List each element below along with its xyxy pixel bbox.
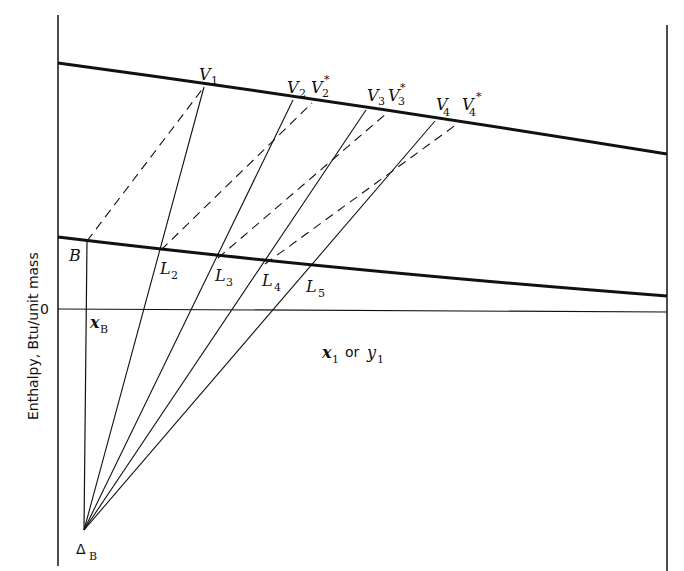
tie-line-l2-v2star — [161, 103, 312, 250]
svg-text:x: x — [89, 313, 100, 332]
zero-enthalpy-line — [58, 309, 667, 312]
label-b: B — [68, 246, 81, 265]
svg-text:2: 2 — [171, 269, 178, 282]
operating-line-v3 — [84, 110, 366, 530]
enthalpy-composition-diagram: Enthalpy, Btu/unit mass 0 x 1 or y 1 V 1… — [0, 0, 684, 571]
svg-text:x: x — [321, 343, 332, 362]
label-v4: V 4 — [436, 95, 450, 119]
saturated-vapor-curve — [58, 63, 667, 154]
label-l3: L 3 — [214, 266, 233, 289]
svg-text:Δ: Δ — [76, 541, 86, 557]
tie-line-b-v1 — [87, 87, 204, 241]
svg-text:B: B — [100, 323, 108, 336]
label-l2: L 2 — [159, 259, 178, 282]
label-l4: L 4 — [261, 271, 281, 294]
x-axis-title: x 1 or y 1 — [321, 343, 384, 366]
svg-text:or: or — [345, 344, 360, 360]
y-axis-title: Enthalpy, Btu/unit mass — [25, 252, 41, 420]
label-l5: L 5 — [305, 277, 325, 300]
tie-line-l4-v4star — [265, 124, 457, 264]
operating-line-v4 — [84, 121, 435, 530]
svg-text:2: 2 — [299, 87, 306, 100]
svg-text:4: 4 — [443, 106, 450, 119]
xB-vertical-line — [84, 241, 87, 530]
label-v3-star: V 3 * — [388, 81, 406, 108]
svg-text:2: 2 — [322, 87, 329, 100]
svg-text:1: 1 — [332, 353, 339, 366]
svg-text:L: L — [305, 277, 317, 296]
svg-text:*: * — [400, 81, 406, 94]
label-delta-b: Δ B — [76, 541, 97, 563]
svg-text:4: 4 — [274, 281, 281, 294]
operating-line-v2 — [84, 100, 293, 530]
zero-tick-label: 0 — [40, 301, 49, 317]
svg-text:*: * — [324, 73, 330, 86]
svg-text:*: * — [476, 90, 482, 103]
svg-text:3: 3 — [378, 95, 385, 108]
svg-text:5: 5 — [318, 287, 325, 300]
svg-text:L: L — [159, 259, 171, 278]
label-v2: V 2 — [287, 78, 306, 100]
svg-text:3: 3 — [226, 276, 233, 289]
svg-text:L: L — [214, 266, 226, 285]
label-xb: x B — [89, 313, 108, 336]
operating-line-v1 — [84, 87, 204, 530]
label-v1: V 1 — [199, 65, 218, 87]
label-v2-star: V 2 * — [311, 73, 330, 100]
svg-text:L: L — [261, 271, 273, 290]
svg-text:3: 3 — [398, 95, 405, 108]
svg-text:y: y — [366, 343, 377, 362]
label-v4-star: V 4 * — [462, 90, 482, 119]
svg-text:1: 1 — [377, 353, 384, 366]
svg-text:4: 4 — [469, 106, 476, 119]
svg-text:1: 1 — [211, 74, 218, 87]
svg-text:B: B — [89, 550, 97, 563]
label-v3: V 3 — [367, 86, 385, 108]
